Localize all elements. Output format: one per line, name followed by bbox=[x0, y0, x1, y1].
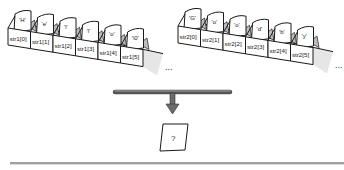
cell-index-label: str2[1] bbox=[202, 36, 219, 43]
cell-char: 'y' bbox=[302, 33, 307, 39]
cell-char: 'l' bbox=[64, 24, 68, 30]
str2-array: 'G'str2[0]'o'str2[1]'o'str2[2]'d'str2[3]… bbox=[178, 8, 343, 73]
arrow-head-icon bbox=[166, 104, 179, 114]
result-box: ? bbox=[160, 124, 188, 151]
cell-index-label: str1[1] bbox=[32, 38, 49, 45]
merge-connector bbox=[115, 91, 230, 114]
cell-index-label: str1[5] bbox=[122, 53, 139, 60]
str1-array: 'H'str1[0]'e'str1[1]'l'str1[2]'l'str1[3]… bbox=[8, 10, 173, 75]
cell-char: 'o' bbox=[109, 31, 115, 37]
cell-char: 'd' bbox=[257, 26, 263, 32]
cell-char: 'o' bbox=[212, 19, 218, 25]
bottom-rule bbox=[10, 162, 344, 164]
continuation-ellipsis: ... bbox=[335, 60, 343, 70]
arrow-shaft bbox=[170, 93, 175, 105]
cell-index-label: str2[5] bbox=[292, 51, 309, 58]
cell-index-label: str2[0] bbox=[180, 33, 197, 40]
cell-index-label: str1[3] bbox=[77, 45, 94, 52]
cell-char: '\0' bbox=[132, 35, 139, 41]
cell-index-label: str1[4] bbox=[100, 49, 117, 56]
cell-index-label: str1[2] bbox=[55, 42, 72, 49]
cell-char: 'l' bbox=[87, 28, 91, 34]
cell-index-label: str2[2] bbox=[225, 40, 242, 47]
continuation-ellipsis: ... bbox=[165, 62, 173, 72]
cell-index-label: str2[3] bbox=[247, 43, 264, 50]
cell-char: 'G' bbox=[189, 15, 196, 21]
cell-index-label: str2[4] bbox=[270, 47, 287, 54]
cell-char: 'H' bbox=[19, 17, 26, 23]
diagram-canvas: 'H'str1[0]'e'str1[1]'l'str1[2]'l'str1[3]… bbox=[0, 0, 344, 170]
cell-char: 'b' bbox=[279, 29, 285, 35]
cell-char: 'o' bbox=[234, 22, 240, 28]
cell-char: 'e' bbox=[42, 21, 48, 27]
result-label: ? bbox=[171, 134, 176, 143]
cell-index-label: str1[0] bbox=[10, 35, 27, 42]
bottom-rule-shade bbox=[10, 164, 344, 165]
